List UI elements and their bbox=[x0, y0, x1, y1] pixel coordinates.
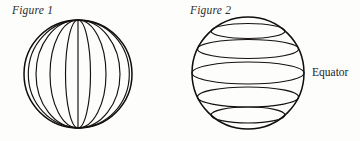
figure-2-globe bbox=[192, 17, 304, 129]
figures-artwork bbox=[0, 0, 360, 141]
parallel-north-polar bbox=[211, 24, 285, 39]
parallel-equator bbox=[192, 62, 304, 84]
parallel-south-tropic bbox=[197, 87, 298, 107]
figure-2-sphere-outline bbox=[192, 17, 304, 129]
figure-page: Figure 1 Figure 2 Equator bbox=[0, 0, 360, 141]
figure-1-globe bbox=[24, 20, 132, 128]
parallel-north-tropic bbox=[197, 40, 298, 59]
parallel-south-polar bbox=[211, 107, 285, 123]
meridian-4 bbox=[28, 20, 129, 127]
